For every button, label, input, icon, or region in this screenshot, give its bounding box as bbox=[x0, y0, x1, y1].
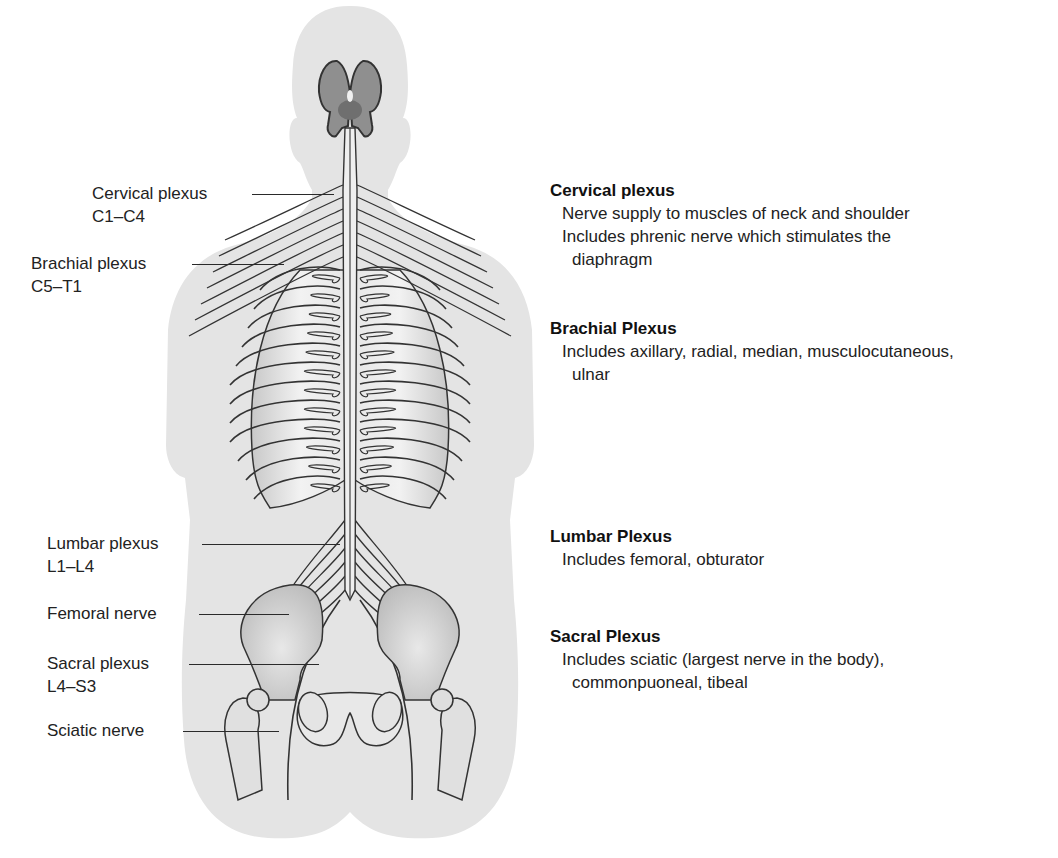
desc-line: Includes axillary, radial, median, muscu… bbox=[550, 340, 1050, 363]
desc-line: Includes phrenic nerve which stimulates … bbox=[550, 225, 1050, 248]
label-sciatic-nerve: Sciatic nerve bbox=[47, 719, 144, 742]
label-range: L4–S3 bbox=[47, 675, 149, 698]
leader-sciatic bbox=[183, 731, 279, 732]
label-name: Sciatic nerve bbox=[47, 719, 144, 742]
label-range: C5–T1 bbox=[31, 275, 146, 298]
label-lumbar-plexus: Lumbar plexus L1–L4 bbox=[47, 532, 159, 578]
leader-femoral bbox=[199, 614, 289, 615]
leader-cervical bbox=[252, 194, 334, 195]
desc-line: diaphragm bbox=[550, 248, 1050, 271]
desc-title: Brachial Plexus bbox=[550, 318, 1050, 340]
desc-cervical-plexus: Cervical plexus Nerve supply to muscles … bbox=[550, 180, 1050, 271]
anatomy-illustration bbox=[0, 0, 1058, 858]
label-femoral-nerve: Femoral nerve bbox=[47, 602, 157, 625]
desc-line: Includes femoral, obturator bbox=[550, 548, 1050, 571]
leader-lumbar bbox=[202, 544, 340, 545]
label-sacral-plexus: Sacral plexus L4–S3 bbox=[47, 652, 149, 698]
desc-brachial-plexus: Brachial Plexus Includes axillary, radia… bbox=[550, 318, 1050, 386]
desc-line: Nerve supply to muscles of neck and shou… bbox=[550, 202, 1050, 225]
desc-title: Cervical plexus bbox=[550, 180, 1050, 202]
label-cervical-plexus: Cervical plexus C1–C4 bbox=[92, 182, 207, 228]
desc-line: Includes sciatic (largest nerve in the b… bbox=[550, 648, 1050, 671]
label-brachial-plexus: Brachial plexus C5–T1 bbox=[31, 252, 146, 298]
label-name: Brachial plexus bbox=[31, 252, 146, 275]
leader-sacral bbox=[189, 664, 319, 665]
label-name: Lumbar plexus bbox=[47, 532, 159, 555]
desc-lumbar-plexus: Lumbar Plexus Includes femoral, obturato… bbox=[550, 526, 1050, 571]
desc-title: Lumbar Plexus bbox=[550, 526, 1050, 548]
label-name: Sacral plexus bbox=[47, 652, 149, 675]
label-name: Femoral nerve bbox=[47, 602, 157, 625]
label-name: Cervical plexus bbox=[92, 182, 207, 205]
label-range: L1–L4 bbox=[47, 555, 159, 578]
label-range: C1–C4 bbox=[92, 205, 207, 228]
desc-line: commonpuoneal, tibeal bbox=[550, 671, 1050, 694]
desc-line: ulnar bbox=[550, 363, 1050, 386]
leader-brachial bbox=[192, 264, 284, 265]
desc-sacral-plexus: Sacral Plexus Includes sciatic (largest … bbox=[550, 626, 1050, 694]
desc-title: Sacral Plexus bbox=[550, 626, 1050, 648]
